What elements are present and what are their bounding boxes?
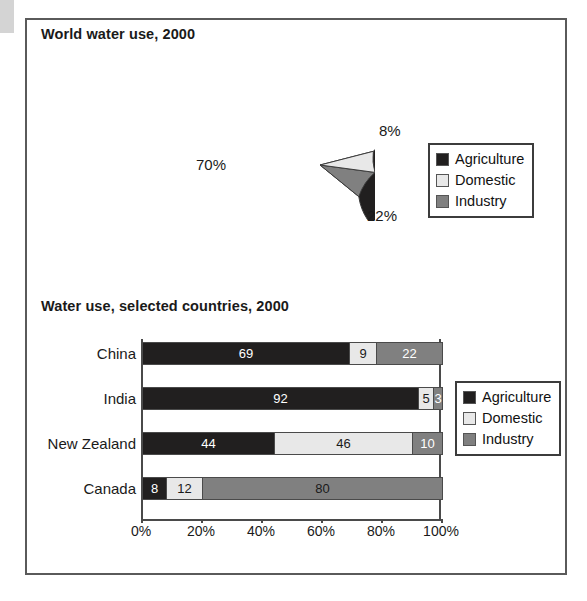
bar-value-china-domestic: 9 xyxy=(359,347,366,360)
legend-swatch-domestic xyxy=(436,174,449,187)
x-tick-label-60: 60% xyxy=(307,523,335,539)
x-tick-label-0: 0% xyxy=(131,523,151,539)
pie-chart-legend: Agriculture Domestic Industry xyxy=(428,143,534,218)
legend-label-industry: Industry xyxy=(455,194,507,209)
corner-gray-artifact xyxy=(0,0,14,33)
bar-category-label-china: China xyxy=(6,345,136,362)
legend-item-agriculture: Agriculture xyxy=(436,149,524,170)
legend-swatch-industry xyxy=(436,195,449,208)
bar-value-canada-industry: 80 xyxy=(315,482,329,495)
bar-chart-title: Water use, selected countries, 2000 xyxy=(41,298,289,314)
bar-value-india-agriculture: 92 xyxy=(273,392,287,405)
legend-swatch-agriculture xyxy=(463,391,476,404)
legend-label-agriculture: Agriculture xyxy=(455,152,524,167)
bar-value-india-industry: 3 xyxy=(434,392,441,405)
bar-row-india: 92 5 3 xyxy=(143,387,443,410)
bar-value-china-agriculture: 69 xyxy=(239,347,253,360)
bar-segment-india-industry: 3 xyxy=(434,387,443,410)
bar-segment-canada-industry: 80 xyxy=(203,477,443,500)
legend-label-agriculture: Agriculture xyxy=(482,390,551,405)
bar-segment-canada-agriculture: 8 xyxy=(143,477,167,500)
bar-value-canada-domestic: 12 xyxy=(177,482,191,495)
bar-category-label-canada: Canada xyxy=(6,480,136,497)
bar-value-india-domestic: 5 xyxy=(422,392,429,405)
x-tick-label-20: 20% xyxy=(187,523,215,539)
bar-value-china-industry: 22 xyxy=(402,347,416,360)
legend-swatch-domestic xyxy=(463,412,476,425)
legend-label-domestic: Domestic xyxy=(482,411,542,426)
bar-row-canada: 8 12 80 xyxy=(143,477,443,500)
pie-label-domestic: 8% xyxy=(379,122,401,139)
x-tick-label-100: 100% xyxy=(423,523,459,539)
legend-item-domestic: Domestic xyxy=(463,408,551,429)
bar-chart-legend: Agriculture Domestic Industry xyxy=(455,381,561,456)
x-tick-label-80: 80% xyxy=(367,523,395,539)
pie-chart xyxy=(265,110,375,220)
bar-segment-india-agriculture: 92 xyxy=(143,387,419,410)
legend-swatch-industry xyxy=(463,433,476,446)
legend-item-domestic: Domestic xyxy=(436,170,524,191)
bar-segment-canada-domestic: 12 xyxy=(167,477,203,500)
legend-item-agriculture: Agriculture xyxy=(463,387,551,408)
bar-segment-china-industry: 22 xyxy=(377,342,443,365)
bar-segment-china-agriculture: 69 xyxy=(143,342,350,365)
legend-swatch-agriculture xyxy=(436,153,449,166)
bar-segment-new-zealand-domestic: 46 xyxy=(275,432,413,455)
bar-segment-china-domestic: 9 xyxy=(350,342,377,365)
legend-item-industry: Industry xyxy=(436,191,524,212)
bar-category-label-new-zealand: New Zealand xyxy=(6,435,136,452)
x-axis-line xyxy=(141,519,443,521)
bar-segment-new-zealand-industry: 10 xyxy=(413,432,443,455)
legend-label-industry: Industry xyxy=(482,432,534,447)
bar-value-canada-agriculture: 8 xyxy=(151,482,158,495)
bar-segment-new-zealand-agriculture: 44 xyxy=(143,432,275,455)
bar-chart-plot-area: 69 9 22 92 5 3 44 46 10 8 xyxy=(141,339,441,519)
legend-item-industry: Industry xyxy=(463,429,551,450)
legend-label-domestic: Domestic xyxy=(455,173,515,188)
x-tick-label-40: 40% xyxy=(247,523,275,539)
bar-value-new-zealand-agriculture: 44 xyxy=(201,437,215,450)
pie-chart-title: World water use, 2000 xyxy=(41,26,195,42)
bar-segment-india-domestic: 5 xyxy=(419,387,434,410)
bar-value-new-zealand-industry: 10 xyxy=(420,437,434,450)
bar-row-china: 69 9 22 xyxy=(143,342,443,365)
pie-label-industry: 22% xyxy=(367,207,397,224)
pie-chart-svg xyxy=(265,110,375,220)
pie-label-agriculture: 70% xyxy=(196,156,226,173)
bar-value-new-zealand-domestic: 46 xyxy=(336,437,350,450)
bar-category-label-india: India xyxy=(6,390,136,407)
bar-row-new-zealand: 44 46 10 xyxy=(143,432,443,455)
